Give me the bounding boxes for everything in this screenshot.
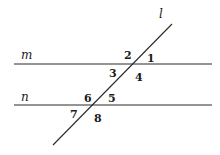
angle-label-6: 6 [84, 92, 92, 105]
angle-label-2: 2 [124, 49, 132, 62]
label-line-n: n [21, 90, 29, 104]
angle-label-4: 4 [135, 71, 143, 84]
transversal-l [53, 24, 172, 145]
angle-label-1: 1 [147, 52, 155, 65]
angle-label-8: 8 [94, 112, 102, 125]
angle-label-7: 7 [70, 108, 78, 121]
label-line-l: l [159, 7, 163, 21]
label-line-m: m [21, 48, 32, 62]
angle-label-3: 3 [109, 67, 117, 80]
angle-label-5: 5 [108, 92, 116, 105]
parallel-lines-diagram: m n l 1 2 3 4 5 6 7 8 [0, 0, 220, 155]
